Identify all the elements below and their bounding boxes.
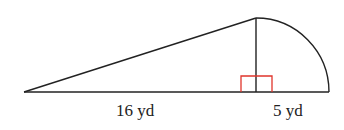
quarter-circle-arc <box>256 18 329 92</box>
hypotenuse <box>24 18 256 92</box>
left-segment-label: 16 yd <box>116 101 155 120</box>
diagram-canvas: 16 yd 5 yd <box>0 0 344 130</box>
right-segment-label: 5 yd <box>273 101 303 120</box>
